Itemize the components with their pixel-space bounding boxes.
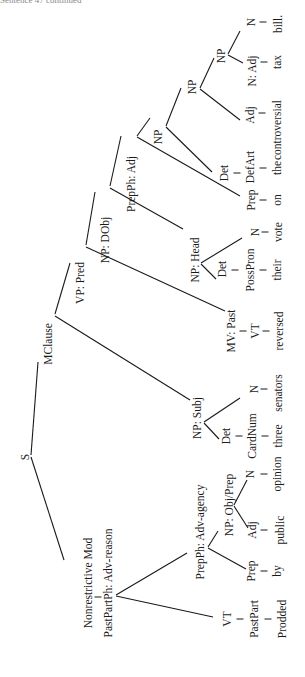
node-nonrestrictive-mod: Nonrestrictive Mod: [82, 538, 94, 628]
node-np-dobj: NP: DObj: [99, 217, 111, 263]
leaf-word: Prodded: [276, 600, 288, 638]
leaf-pos: Det: [218, 165, 230, 182]
leaf-word: public: [274, 516, 286, 545]
node-mclause: MClause: [42, 323, 54, 365]
node-np-objprep: NP: Obj/Prep: [223, 474, 235, 536]
node-np-subj: NP: Subj: [191, 397, 203, 439]
tick: [263, 331, 270, 332]
leaf-pos: N: [249, 228, 261, 236]
leaf-pos: PossPron: [244, 249, 256, 292]
leaf-pos: N: [244, 470, 256, 478]
leaf-pos: N: Adj: [246, 56, 258, 87]
leaf-pos: Det: [220, 428, 232, 445]
tick: [262, 232, 269, 233]
node-np-head: NP: Head: [189, 237, 201, 282]
node-prepph-agency: PrepPh: Adv-agency: [194, 485, 206, 580]
leaf-word: the: [271, 161, 283, 175]
node-s: S: [19, 454, 31, 460]
tick: [232, 270, 239, 271]
tick: [260, 22, 267, 23]
leaf-pos: Adj: [244, 106, 256, 123]
leaf-word: vote: [272, 222, 284, 242]
tick: [240, 331, 247, 332]
node-np: NP: [186, 80, 198, 95]
leaf-word: three: [272, 425, 284, 448]
leaf-pos: MV: Past: [225, 310, 237, 353]
tick: [261, 571, 268, 572]
leaf-pos: Adj: [246, 521, 258, 538]
tick: [95, 597, 102, 598]
leaf-pos: N: [245, 18, 257, 26]
node-prepph-adj: PrepPh: Adj: [125, 156, 137, 212]
node-np: NP: [215, 49, 227, 64]
leaf-word: by: [271, 565, 283, 577]
tick: [262, 436, 269, 437]
tick: [260, 200, 267, 201]
tick: [237, 619, 244, 620]
leaf-word: on: [271, 194, 283, 206]
leaf-pos: DefArt: [244, 151, 256, 184]
node-pastpartph: PastPartPh: Adv-reason: [102, 529, 114, 638]
tick: [261, 389, 268, 390]
leaf-pos: VT: [249, 323, 261, 338]
leaf-word: controversial: [271, 100, 283, 160]
leaf-word: senators: [272, 374, 284, 412]
leaf-pos: Prep: [245, 560, 257, 581]
tick: [261, 62, 268, 63]
leaf-word: opinion: [271, 456, 283, 491]
leaf-pos: N: [248, 385, 260, 393]
tick: [234, 173, 241, 174]
tick: [260, 168, 267, 169]
node-vp-pred: VP: Pred: [74, 262, 86, 304]
leaf-pos: CardNum: [246, 413, 258, 458]
leaf-word: tax: [271, 55, 283, 69]
tick: [261, 530, 268, 531]
leaf-word: bill.: [272, 15, 284, 33]
tick: [259, 113, 266, 114]
leaf-pos: VT: [221, 611, 233, 626]
leaf-word: their: [271, 259, 283, 280]
tick: [236, 436, 243, 437]
leaf-pos: Det: [216, 261, 228, 278]
leaf-pos: Prep: [245, 189, 257, 210]
tick: [261, 474, 268, 475]
node-np: NP: [152, 130, 164, 145]
leaf-pos: PastPart: [248, 600, 260, 638]
tick: [265, 619, 272, 620]
leaf-word: reversed: [273, 312, 285, 351]
tick: [260, 270, 267, 271]
